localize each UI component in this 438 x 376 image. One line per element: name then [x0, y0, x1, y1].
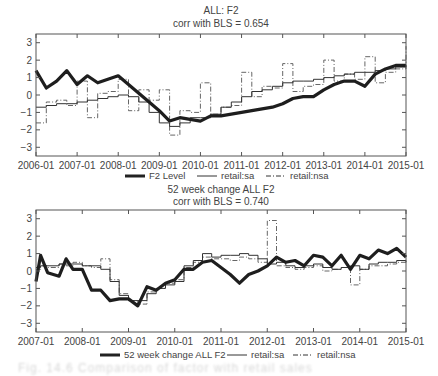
- x-tick-label: 2015-01: [388, 336, 425, 347]
- chart-figure: ALL: F2 corr with BLS = 0.654 −3−2−10123…: [0, 0, 438, 376]
- y-tick-label: 1: [26, 248, 32, 259]
- y-tick-label: 1: [26, 72, 32, 83]
- bottom-plot-lines: [36, 221, 406, 306]
- x-tick-label: 2014-01: [341, 336, 378, 347]
- y-tick-label: 0: [26, 266, 32, 277]
- y-tick-label: −1: [21, 283, 33, 294]
- top-legend: F2 Level retail:sa retail:nsa: [125, 170, 329, 181]
- y-tick-label: −2: [21, 300, 33, 311]
- bottom-plot-x-axis: 2007-012008-012009-012010-012011-012012-…: [18, 210, 425, 347]
- x-tick-label: 2010-01: [156, 336, 193, 347]
- bottom-legend: 52 week change ALL F2 retail:sa retail:n…: [100, 349, 356, 360]
- top-plot: ALL: F2 corr with BLS = 0.654 −3−2−10123…: [18, 5, 425, 181]
- legend-label: 52 week change ALL F2: [124, 349, 226, 360]
- x-tick-label: 2008-01: [64, 336, 101, 347]
- y-tick-label: −3: [21, 318, 33, 329]
- series-line-retail-nsa: [36, 46, 406, 135]
- y-tick-label: −3: [21, 142, 33, 153]
- y-tick-label: 3: [26, 37, 32, 48]
- legend-label: F2 Level: [149, 170, 185, 181]
- bottom-plot: 52 week change ALL F2 corr with BLS = 0.…: [18, 184, 425, 360]
- bottom-plot-y-axis: −3−2−10123: [21, 213, 406, 329]
- bottom-plot-subtitle: corr with BLS = 0.740: [173, 196, 269, 207]
- x-tick-label: 2007-01: [59, 160, 96, 171]
- x-tick-label: 2012-01: [249, 336, 286, 347]
- x-tick-label: 2015-01: [388, 160, 425, 171]
- x-tick-label: 2009-01: [110, 336, 147, 347]
- y-tick-label: 3: [26, 213, 32, 224]
- x-tick-label: 2010-01: [182, 160, 219, 171]
- y-tick-label: 0: [26, 90, 32, 101]
- legend-label: retail:sa: [221, 170, 255, 181]
- y-tick-label: −1: [21, 107, 33, 118]
- series-line-retail-sa: [36, 254, 406, 301]
- top-plot-subtitle: corr with BLS = 0.654: [173, 18, 269, 29]
- top-plot-frame: [36, 34, 406, 156]
- x-tick-label: 2007-01: [18, 336, 55, 347]
- legend-label: retail:sa: [251, 349, 285, 360]
- y-tick-label: −2: [21, 124, 33, 135]
- x-tick-label: 2011-01: [203, 336, 239, 347]
- figure-caption: Fig. 14.6 Comparison of factor with reta…: [18, 361, 313, 375]
- top-plot-title: ALL: F2: [203, 5, 238, 16]
- y-tick-label: 2: [26, 231, 32, 242]
- top-plot-lines: [36, 46, 406, 135]
- x-tick-label: 2006-01: [18, 160, 55, 171]
- x-tick-label: 2014-01: [347, 160, 384, 171]
- y-tick-label: 2: [26, 55, 32, 66]
- legend-label: retail:nsa: [317, 349, 356, 360]
- x-tick-label: 2013-01: [295, 336, 332, 347]
- top-plot-y-axis: −3−2−10123: [21, 37, 406, 153]
- x-tick-label: 2008-01: [100, 160, 137, 171]
- bottom-plot-title: 52 week change ALL F2: [168, 184, 275, 195]
- legend-label: retail:nsa: [290, 170, 329, 181]
